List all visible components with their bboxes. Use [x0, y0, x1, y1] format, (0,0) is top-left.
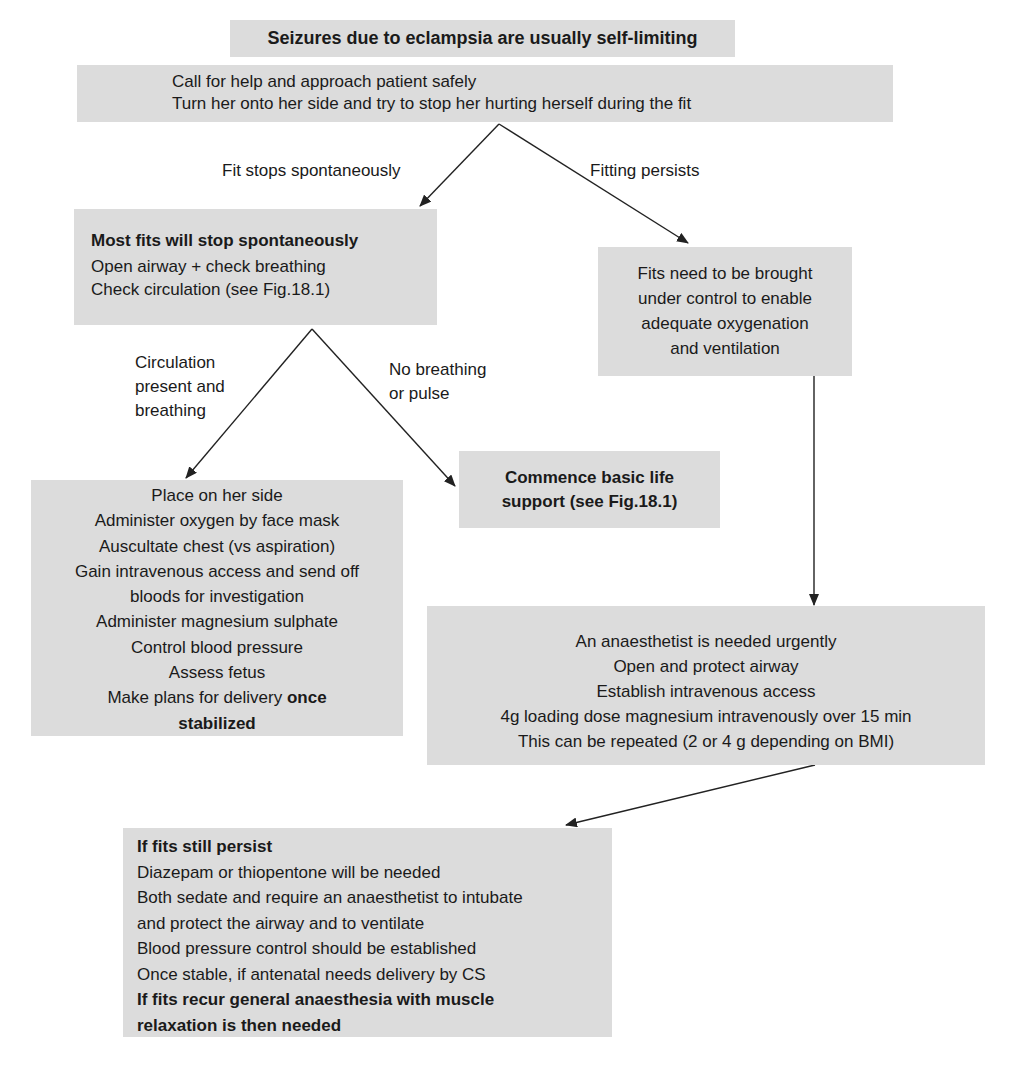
node-line: Blood pressure control should be establi… — [137, 936, 612, 962]
node-line: Both sedate and require an anaesthetist … — [137, 885, 612, 911]
node-line: Call for help and approach patient safel… — [172, 71, 893, 93]
node-line: under control to enable — [598, 286, 852, 311]
node-line: Control blood pressure — [31, 635, 403, 660]
node-line: Auscultate chest (vs aspiration) — [31, 534, 403, 559]
arrow-to-persist — [499, 124, 688, 243]
node-line: Diazepam or thiopentone will be needed — [137, 860, 612, 886]
node-line: Once stable, if antenatal needs delivery… — [137, 962, 612, 988]
node-footer: If fits recur general anaesthesia with m… — [137, 987, 612, 1013]
node-line: and ventilation — [598, 336, 852, 361]
title-text: Seizures due to eclampsia are usually se… — [267, 28, 697, 49]
edge-label-fit-stops: Fit stops spontaneously — [222, 160, 401, 182]
flowchart-title: Seizures due to eclampsia are usually se… — [230, 20, 735, 57]
node-line: Assess fetus — [31, 660, 403, 685]
edge-label-line: present and — [135, 375, 225, 399]
node-heading: If fits still persist — [137, 834, 612, 860]
node-line: Open airway + check breathing — [91, 255, 437, 278]
node-footer: relaxation is then needed — [137, 1013, 612, 1039]
arrow-to-bls — [312, 329, 455, 486]
node-heading: Most fits will stop spontaneously — [91, 229, 437, 252]
edge-label-line: breathing — [135, 399, 225, 423]
node-anaesthetist-needed: An anaesthetist is needed urgently Open … — [427, 606, 985, 765]
edge-label-circulation-present: Circulation present and breathing — [135, 351, 225, 423]
arrow-to-still — [566, 765, 815, 825]
node-line: 4g loading dose magnesium intravenously … — [427, 704, 985, 729]
node-fits-stop: Most fits will stop spontaneously Open a… — [74, 209, 437, 325]
node-supportive-care: Place on her side Administer oxygen by f… — [31, 480, 403, 736]
edge-label-line: or pulse — [389, 382, 486, 406]
node-line-text: Make plans for delivery — [107, 688, 287, 707]
edge-label-fitting-persists: Fitting persists — [590, 160, 700, 182]
node-line: Fits need to be brought — [598, 261, 852, 286]
node-fits-persist: Fits need to be brought under control to… — [598, 247, 852, 376]
node-line: support (see Fig.18.1) — [459, 490, 720, 514]
node-line: Administer magnesium sulphate — [31, 609, 403, 634]
node-line: Gain intravenous access and send off — [31, 559, 403, 584]
node-line: bloods for investigation — [31, 584, 403, 609]
node-line: This can be repeated (2 or 4 g depending… — [427, 729, 985, 754]
edge-label-no-breathing: No breathing or pulse — [389, 358, 486, 406]
node-line-emphasis: stabilized — [31, 711, 403, 736]
node-line: adequate oxygenation — [598, 311, 852, 336]
node-line: and protect the airway and to ventilate — [137, 911, 612, 937]
node-line: An anaesthetist is needed urgently — [427, 629, 985, 654]
node-fits-still-persist: If fits still persist Diazepam or thiope… — [123, 828, 612, 1037]
arrow-to-stop — [420, 124, 499, 206]
edge-label-line: Circulation — [135, 351, 225, 375]
node-line: Check circulation (see Fig.18.1) — [91, 278, 437, 301]
node-line: Administer oxygen by face mask — [31, 508, 403, 533]
node-initial-actions: Call for help and approach patient safel… — [77, 65, 893, 122]
node-basic-life-support: Commence basic life support (see Fig.18.… — [459, 451, 720, 528]
node-line: Place on her side — [31, 483, 403, 508]
node-line: Commence basic life — [459, 466, 720, 490]
node-line: Establish intravenous access — [427, 679, 985, 704]
node-line: Make plans for delivery once — [31, 685, 403, 710]
edge-label-line: No breathing — [389, 358, 486, 382]
node-line: Turn her onto her side and try to stop h… — [172, 93, 893, 115]
node-line-emphasis: once — [287, 688, 327, 707]
node-line: Open and protect airway — [427, 654, 985, 679]
